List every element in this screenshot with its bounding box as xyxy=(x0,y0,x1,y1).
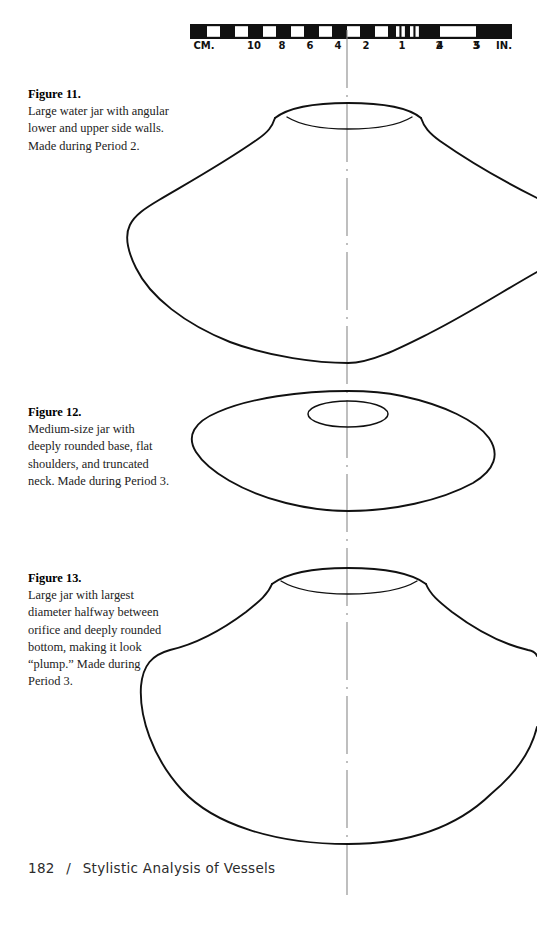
figure-13-rim-top xyxy=(272,568,426,584)
vessel-figure-11 xyxy=(127,103,537,363)
scale-bar: CM. 10 8 6 4 2 1 2 3 4 5 IN. xyxy=(190,24,512,60)
scale-label-in-1: 1 xyxy=(399,40,406,52)
figure-11-caption: Figure 11. Large water jar with angular … xyxy=(28,86,170,155)
page-footer: 182 / Stylistic Analysis of Vessels xyxy=(28,860,275,876)
figure-11-rim-top xyxy=(275,103,421,118)
figure-13-number: Figure 13. xyxy=(28,571,81,585)
figure-12-caption: Figure 12. Medium-size jar with deeply r… xyxy=(28,404,170,490)
figure-13-text: Large jar with largest diameter halfway … xyxy=(28,587,170,690)
figure-12-orifice xyxy=(308,401,388,427)
scale-label-cm-unit: CM. xyxy=(193,40,214,52)
figure-13-rim-front xyxy=(281,581,417,594)
book-page: CM. 10 8 6 4 2 1 2 3 4 5 IN. xyxy=(0,0,537,939)
footer-page-number: 182 xyxy=(28,860,55,876)
footer-section-title: Stylistic Analysis of Vessels xyxy=(83,860,276,876)
scale-label-cm-2: 2 xyxy=(363,40,370,52)
scale-label-in-unit: IN. xyxy=(496,40,512,52)
figure-12-text: Medium-size jar with deeply rounded base… xyxy=(28,421,170,490)
figure-11-number: Figure 11. xyxy=(28,87,81,101)
scale-label-cm-4: 4 xyxy=(335,40,342,52)
figure-13-left-profile xyxy=(141,584,348,844)
figure-12-body-outline xyxy=(192,391,495,511)
figure-13-right-upper-profile xyxy=(426,584,537,656)
figure-11-right-lower-profile xyxy=(348,272,537,363)
figure-13-right-lower-profile xyxy=(348,727,537,844)
figure-11-rim-front xyxy=(287,117,412,129)
scale-label-cm-8: 8 xyxy=(279,40,286,52)
figure-11-text: Large water jar with angular lower and u… xyxy=(28,103,170,155)
scale-bar-graphic xyxy=(190,24,512,39)
figure-13-caption: Figure 13. Large jar with largest diamet… xyxy=(28,570,170,690)
vessel-figure-13 xyxy=(141,568,537,844)
scale-bar-labels: CM. 10 8 6 4 2 1 2 3 4 5 IN. xyxy=(190,40,512,56)
footer-separator: / xyxy=(66,860,71,876)
scale-label-cm-6: 6 xyxy=(307,40,314,52)
scale-label-in-5: 5 xyxy=(474,40,481,52)
figure-11-right-upper-profile xyxy=(421,118,537,198)
vessel-figure-12 xyxy=(192,391,495,511)
scale-label-cm-10: 10 xyxy=(247,40,261,52)
figure-12-number: Figure 12. xyxy=(28,405,81,419)
scale-label-in-4: 4 xyxy=(437,40,444,52)
